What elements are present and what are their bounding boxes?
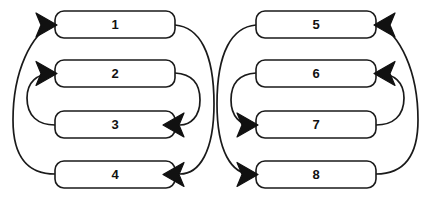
node-8-label: 8 [312,167,319,182]
node-1-label: 1 [111,17,118,32]
node-5[interactable]: 5 [256,11,395,38]
right-group-nodes: 5 6 7 8 [237,11,395,188]
node-4[interactable]: 4 [55,161,184,188]
node-2[interactable]: 2 [36,60,175,87]
node-7[interactable]: 7 [237,111,376,138]
right-group-edges [217,25,418,174]
node-4-label: 4 [111,167,119,182]
edge-5-to-8 [217,25,256,174]
node-6-label: 6 [312,66,319,81]
node-1[interactable]: 1 [36,11,175,38]
edge-4-to-1 [13,25,55,174]
node-2-arrowhead [36,62,57,86]
node-6[interactable]: 6 [256,60,395,87]
node-7-label: 7 [312,117,319,132]
node-3[interactable]: 3 [55,111,184,138]
node-3-label: 3 [111,117,118,132]
edge-8-to-5 [376,25,418,174]
left-group-edges [13,25,214,174]
node-5-arrowhead [374,13,395,37]
node-2-label: 2 [111,66,118,81]
node-8[interactable]: 8 [237,161,376,188]
node-8-arrowhead [237,163,258,187]
left-group-nodes: 1 2 3 4 [36,11,184,188]
node-7-arrowhead [237,113,258,137]
node-6-arrowhead [374,62,395,86]
diagram-canvas: 1 2 3 4 [0,0,433,205]
node-1-arrowhead [36,13,57,37]
connection-diagram: 1 2 3 4 [0,0,433,205]
edge-1-to-4 [175,25,214,174]
node-5-label: 5 [312,17,319,32]
